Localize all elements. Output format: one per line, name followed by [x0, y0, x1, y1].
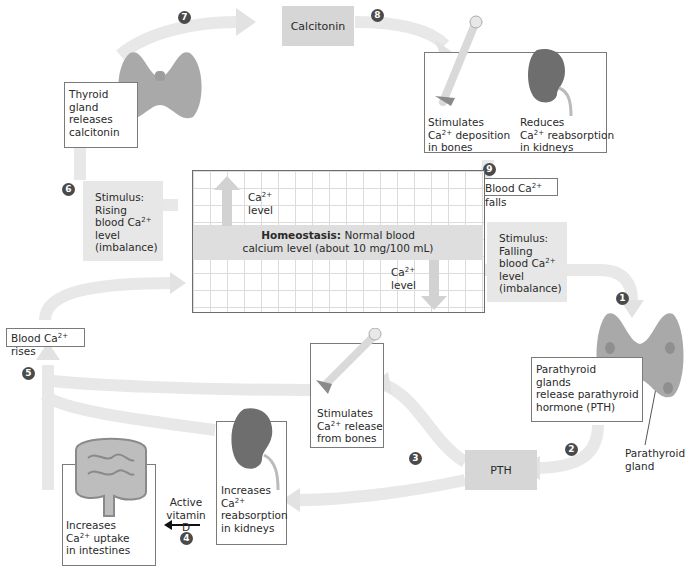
label-line: gland: [625, 460, 685, 473]
step-8-badge: 8: [371, 9, 384, 22]
pth-hormone-box: PTH: [465, 450, 537, 490]
label-part: Ca: [248, 191, 262, 203]
label-line: in intestines: [66, 544, 130, 557]
label-part: falls: [485, 196, 506, 208]
label-line: calcium level (about 10 mg/100 mL): [193, 242, 483, 255]
label-line: Ca2+: [391, 266, 416, 279]
label-line: Ca2+: [221, 497, 288, 510]
label-line: Ca2+: [248, 191, 273, 204]
step-2-badge: 2: [565, 443, 578, 456]
label-line: blood Ca2+: [499, 257, 567, 270]
label-line: in bones: [428, 141, 510, 154]
label-line: Ca2+ uptake: [66, 532, 130, 545]
label-line: level: [391, 279, 416, 292]
label-line: (imbalance): [499, 282, 567, 295]
bone-icon: [312, 328, 382, 398]
label-part: Normal blood: [341, 229, 415, 241]
down-ca-level-label: Ca2+ level: [391, 266, 416, 291]
superscript: 2+: [405, 266, 415, 274]
homeostasis-label: Homeostasis: Normal blood calcium level …: [193, 229, 483, 255]
label-part: Ca: [317, 420, 331, 432]
step-3-badge: 3: [409, 452, 422, 465]
superscript: 2+: [545, 257, 555, 265]
superscript: 2+: [532, 182, 542, 190]
label-line: Stimulates: [428, 116, 510, 129]
label-line: Active: [162, 496, 210, 509]
label-line: hormone (PTH): [536, 401, 642, 414]
calcitonin-bone-effect-label: Stimulates Ca2+ deposition in bones: [428, 116, 510, 154]
superscript: 2+: [534, 128, 544, 136]
kidney-icon: [228, 405, 283, 490]
label-bold: Homeostasis:: [261, 229, 341, 241]
label-line: Rising: [95, 204, 163, 217]
label-line: Increases: [221, 484, 288, 497]
label-line: glands: [536, 376, 642, 389]
label-line: reabsorption: [221, 509, 288, 522]
bone-icon: [433, 14, 493, 109]
thyroid-label-line: Thyroid: [69, 88, 133, 101]
label-line: Stimulus:: [499, 232, 567, 245]
label-line: Ca2+ release: [317, 420, 383, 433]
label-part: release: [341, 420, 383, 432]
label-line: Ca2+ reabsorption: [520, 129, 614, 142]
step-1-badge: 1: [616, 292, 629, 305]
label-part: deposition: [452, 129, 510, 141]
active-vitamin-d-label: Active vitamin D: [162, 496, 210, 534]
label-part: Ca: [391, 266, 405, 278]
label-part: uptake: [90, 532, 129, 544]
stimulus-falling-box: Stimulus: Falling blood Ca2+ level (imba…: [487, 222, 567, 302]
superscript: 2+: [331, 419, 341, 427]
label-line: Increases: [66, 519, 130, 532]
calcitonin-kidney-effect-label: Reduces Ca2+ reabsorption in kidneys: [520, 116, 614, 154]
label-part: Ca: [66, 532, 80, 544]
label-line: Stimulus:: [95, 191, 163, 204]
label-part: blood Ca: [499, 257, 545, 269]
arrow-up-icon: [214, 176, 240, 226]
label-line: Falling: [499, 245, 567, 258]
thyroid-label-box: Thyroid gland releases calcitonin: [64, 82, 138, 148]
blood-ca-rises-box: Blood Ca2+ rises: [6, 328, 85, 347]
label-part: rises: [11, 345, 36, 357]
label-line: Stimulates: [317, 407, 383, 420]
label-part: Ca: [520, 129, 534, 141]
pth-kidney-effect-label: Increases Ca2+ reabsorption in kidneys: [221, 484, 288, 534]
label-line: from bones: [317, 432, 383, 445]
label-line: blood Ca2+: [95, 216, 163, 229]
label-line: Reduces: [520, 116, 614, 129]
superscript: 2+: [141, 216, 151, 224]
label-line: Parathyroid: [536, 363, 642, 376]
step-6-badge: 6: [62, 183, 75, 196]
thyroid-label-line: releases: [69, 113, 133, 126]
label-part: Blood Ca: [11, 332, 58, 344]
superscript: 2+: [235, 496, 245, 504]
superscript: 2+: [58, 332, 68, 340]
label-line: vitamin D: [162, 509, 210, 534]
label-part: blood Ca: [95, 216, 141, 228]
label-line: Homeostasis: Normal blood: [193, 229, 483, 242]
step-7-badge: 7: [178, 11, 191, 24]
label-line: level: [95, 229, 163, 242]
label-part: Ca: [428, 129, 442, 141]
label-line: (imbalance): [95, 241, 163, 254]
label-line: level: [248, 204, 273, 217]
intestine-effect-label: Increases Ca2+ uptake in intestines: [66, 519, 130, 557]
label-line: release parathyroid: [536, 388, 642, 401]
kidney-icon: [525, 46, 575, 116]
label-line: Parathyroid: [625, 447, 685, 460]
label-line: level: [499, 270, 567, 283]
blood-ca-falls-box: Blood Ca2+ falls: [480, 178, 558, 196]
label-line: in kidneys: [520, 141, 614, 154]
step-4-badge: 4: [180, 532, 193, 545]
step-5-badge: 5: [22, 367, 35, 380]
parathyroid-label-box: Parathyroid glands release parathyroid h…: [531, 357, 643, 422]
thyroid-label-line: gland: [69, 101, 133, 114]
label-line: in kidneys: [221, 522, 288, 535]
thyroid-label-line: calcitonin: [69, 126, 133, 139]
stimulus-rising-box: Stimulus: Rising blood Ca2+ level (imbal…: [83, 181, 163, 261]
label-part: Blood Ca: [485, 182, 532, 194]
calcitonin-hormone-box: Calcitonin: [282, 6, 354, 46]
label-part: reabsorption: [544, 129, 614, 141]
superscript: 2+: [442, 128, 452, 136]
label-part: Ca: [221, 497, 235, 509]
parathyroid-gland-callout: Parathyroid gland: [625, 447, 685, 472]
